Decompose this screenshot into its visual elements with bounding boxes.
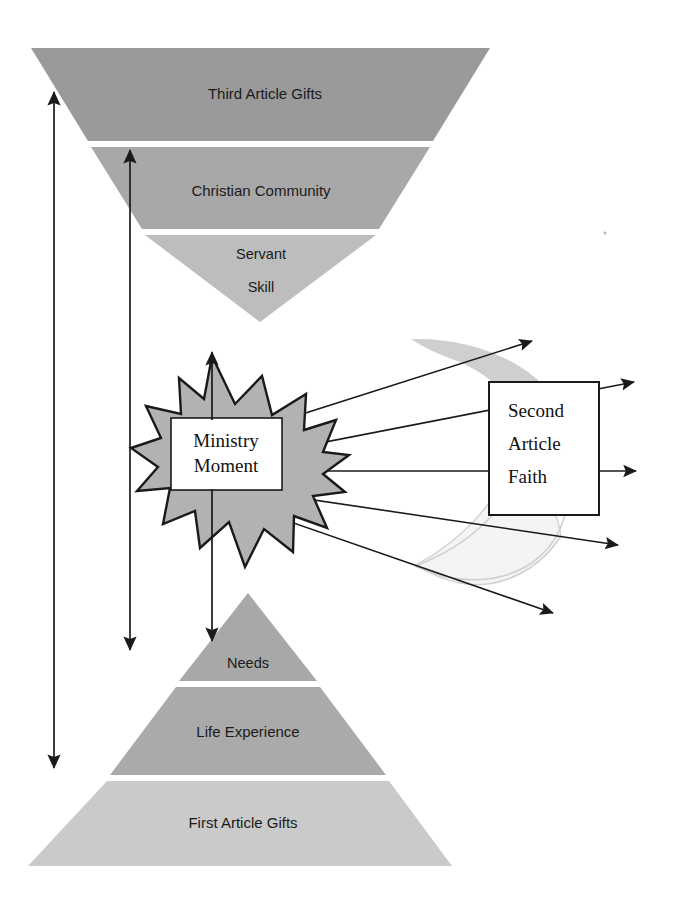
band-label-life-experience: Life Experience — [196, 723, 299, 740]
page-speck — [604, 232, 607, 235]
first-article-pyramid: Needs Life Experience First Article Gift… — [28, 593, 452, 866]
second-article-faith-label-line3: Faith — [508, 466, 548, 487]
ministry-moment-label-line2: Moment — [194, 455, 259, 476]
band-label-needs: Needs — [227, 655, 269, 671]
band-label-skill: Skill — [248, 279, 275, 295]
band-label-third-article-gifts: Third Article Gifts — [208, 85, 322, 102]
ministry-moment-starburst[interactable]: Ministry Moment — [131, 356, 349, 567]
third-article-inverted-pyramid: Third Article Gifts Christian Community … — [31, 48, 490, 322]
diagram-canvas: Third Article Gifts Christian Community … — [0, 0, 676, 910]
ministry-moment-diagram: Third Article Gifts Christian Community … — [0, 0, 676, 910]
span-arrow-group — [54, 92, 130, 768]
band-label-christian-community: Christian Community — [191, 182, 331, 199]
ministry-moment-label-line1: Ministry — [193, 430, 259, 451]
second-article-faith-label-line1: Second — [508, 400, 564, 421]
second-article-faith-label-line2: Article — [508, 433, 561, 454]
ministry-moment-box[interactable] — [171, 418, 282, 490]
band-label-servant: Servant — [236, 246, 286, 262]
second-article-faith-node[interactable]: Second Article Faith — [489, 382, 599, 515]
band-label-first-article-gifts: First Article Gifts — [188, 814, 297, 831]
